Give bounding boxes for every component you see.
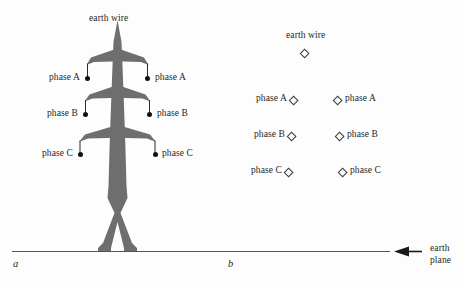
diagram-artwork: [0, 0, 465, 287]
panel-a-phase-a-right-label: phase A: [155, 72, 186, 83]
conductor-dot-phase-b-right: [147, 112, 152, 117]
tower-silhouette: [79, 20, 156, 252]
conductor-dot-phase-a-left: [85, 76, 90, 81]
panel-b-phase-b-left-label: phase B: [229, 129, 285, 140]
panel-b-phase-a-left-label: phase A: [231, 93, 287, 104]
panel-a-phase-c-right-label: phase C: [162, 148, 193, 159]
conductor-dot-phase-b-left: [83, 112, 88, 117]
panel-b-phase-a-right-label: phase A: [345, 93, 376, 104]
earth-plane-arrow: [394, 247, 422, 257]
panel-b-phase-b-right-label: phase B: [347, 129, 378, 140]
panel-b-letter: b: [228, 258, 233, 269]
panel-b-phase-c-left-label: phase C: [226, 165, 282, 176]
panel-a-phase-c-left-label: phase C: [17, 148, 73, 159]
panel-a-earth-wire-label: earth wire: [89, 13, 128, 24]
earth-plane-label-line1: earth: [430, 243, 450, 254]
panel-a-phase-a-left-label: phase A: [24, 72, 80, 83]
panel-a-letter: a: [13, 258, 18, 269]
panel-b-earth-wire-label: earth wire: [286, 30, 325, 41]
figure-canvas: earth wire phase A phase A phase B phase…: [0, 0, 465, 287]
conductor-dot-phase-a-right: [145, 76, 150, 81]
panel-a-phase-b-right-label: phase B: [157, 108, 188, 119]
conductor-dot-phase-c-right: [153, 152, 158, 157]
conductor-dot-phase-c-left: [78, 152, 83, 157]
earth-plane-label-line2: plane: [430, 255, 451, 266]
panel-b-phase-c-right-label: phase C: [350, 165, 381, 176]
panel-a-phase-b-left-label: phase B: [22, 108, 78, 119]
